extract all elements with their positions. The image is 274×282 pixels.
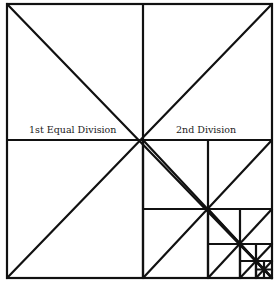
division-lines — [7, 4, 272, 278]
subdivision-diagram — [0, 0, 274, 282]
first-equal-division-label: 1st Equal Division — [29, 124, 116, 135]
second-division-label: 2nd Division — [176, 124, 236, 135]
